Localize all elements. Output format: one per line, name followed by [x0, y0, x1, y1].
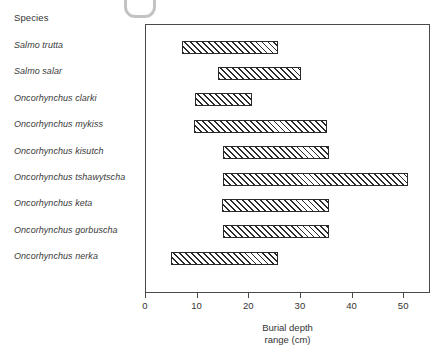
x-tick-label-10: 10 — [191, 300, 202, 311]
species-label-oncorhynchus-tshawytscha: Oncorhynchus tshawytscha — [14, 172, 125, 183]
x-axis-title-line-2: range (cm) — [145, 334, 430, 346]
bar-oncorhynchus-gorbuscha — [223, 225, 329, 238]
x-axis-title-line-1: Burial depth — [145, 322, 430, 334]
burial-depth-range-chart: Species Salmo truttaSalmo salarOncorhync… — [0, 0, 446, 356]
x-tick-label-30: 30 — [295, 300, 306, 311]
bar-oncorhynchus-clarki — [195, 93, 252, 106]
bar-oncorhynchus-mykiss — [194, 120, 327, 133]
species-label-oncorhynchus-mykiss: Oncorhynchus mykiss — [14, 119, 103, 130]
bar-oncorhynchus-tshawytscha — [223, 173, 408, 186]
x-axis-title: Burial depth range (cm) — [145, 322, 430, 346]
bar-oncorhynchus-nerka — [171, 252, 278, 265]
bar-oncorhynchus-keta — [222, 199, 329, 212]
x-tick-mark-40 — [352, 293, 353, 298]
species-label-oncorhynchus-kisutch: Oncorhynchus kisutch — [14, 146, 104, 157]
bar-salmo-trutta — [182, 41, 278, 54]
x-tick-label-0: 0 — [142, 300, 147, 311]
x-tick-mark-30 — [300, 293, 301, 298]
bar-oncorhynchus-kisutch — [223, 146, 329, 159]
bar-salmo-salar — [218, 67, 301, 80]
x-axis: 01020304050 — [145, 293, 430, 294]
species-column-header: Species — [14, 12, 140, 23]
species-label-oncorhynchus-nerka: Oncorhynchus nerka — [14, 251, 98, 262]
x-tick-label-40: 40 — [346, 300, 357, 311]
x-tick-mark-20 — [248, 293, 249, 298]
x-tick-mark-50 — [403, 293, 404, 298]
species-label-oncorhynchus-keta: Oncorhynchus keta — [14, 198, 92, 209]
species-label-oncorhynchus-gorbuscha: Oncorhynchus gorbuscha — [14, 225, 118, 236]
x-tick-mark-0 — [145, 293, 146, 298]
x-tick-label-50: 50 — [398, 300, 409, 311]
x-tick-label-20: 20 — [243, 300, 254, 311]
species-label-salmo-trutta: Salmo trutta — [14, 40, 63, 51]
species-label-salmo-salar: Salmo salar — [14, 66, 62, 77]
species-label-oncorhynchus-clarki: Oncorhynchus clarki — [14, 93, 96, 104]
plot-area — [145, 24, 430, 293]
x-tick-mark-10 — [197, 293, 198, 298]
species-column: Species — [14, 12, 140, 23]
